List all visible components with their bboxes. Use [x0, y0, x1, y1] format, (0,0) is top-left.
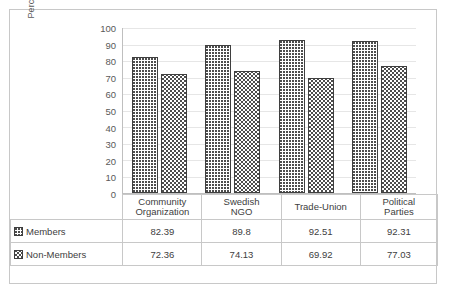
category-cell-2: Trade-Union: [281, 195, 360, 220]
y-tick-40: 40: [105, 122, 116, 133]
y-tick-30: 30: [105, 139, 116, 150]
table-row-categories: Community Organization Swedish NGO Trade…: [11, 195, 438, 220]
value-members-1: 89.8: [202, 220, 281, 243]
y-tick-60: 60: [105, 89, 116, 100]
y-tick-70: 70: [105, 72, 116, 83]
y-axis-tick-labels: 100 90 80 70 60 50 40 30 20 10 0: [68, 28, 120, 194]
value-members-3: 92.31: [360, 220, 437, 243]
category-cell-3: Political Parties: [360, 195, 437, 220]
chart-frame: Percentage 100 90 80 70 60 50 40 30 20 1…: [9, 9, 437, 284]
y-tick-10: 10: [105, 172, 116, 183]
category-line1-3: Political: [383, 196, 416, 207]
axes: [122, 28, 416, 194]
table-row-members: Members 82.39 89.8 92.51 92.31: [11, 220, 438, 243]
value-nonmembers-0: 72.36: [123, 243, 202, 266]
value-nonmembers-1: 74.13: [202, 243, 281, 266]
bar-nonmembers-1[interactable]: [234, 71, 260, 193]
bar-members-3[interactable]: [352, 41, 378, 193]
category-line2-0: Organization: [135, 206, 189, 217]
bar-nonmembers-0[interactable]: [161, 74, 187, 193]
value-members-0: 82.39: [123, 220, 202, 243]
category-cell-1: Swedish NGO: [202, 195, 281, 220]
bar-group-trade-union: [270, 28, 343, 193]
category-line2-3: Parties: [384, 206, 414, 217]
y-tick-80: 80: [105, 56, 116, 67]
series-label-members: Members: [26, 226, 66, 237]
table-row-nonmembers: Non-Members 72.36 74.13 69.92 77.03: [11, 243, 438, 266]
bar-members-2[interactable]: [279, 40, 305, 193]
value-nonmembers-2: 69.92: [281, 243, 360, 266]
category-line1-1: Swedish: [224, 196, 260, 207]
y-tick-100: 100: [100, 23, 116, 34]
bar-nonmembers-2[interactable]: [308, 78, 334, 193]
legend-entry-nonmembers: Non-Members: [11, 243, 123, 266]
bar-group-swedish-ngo: [196, 28, 269, 193]
bar-nonmembers-3[interactable]: [381, 66, 407, 193]
bar-group-community-organization: [123, 28, 196, 193]
bar-members-1[interactable]: [205, 45, 231, 193]
category-cell-0: Community Organization: [123, 195, 202, 220]
value-members-2: 92.51: [281, 220, 360, 243]
category-line2-1: NGO: [231, 206, 253, 217]
y-tick-90: 90: [105, 39, 116, 50]
bar-group-political-parties: [343, 28, 416, 193]
plot-area: Percentage 100 90 80 70 60 50 40 30 20 1…: [10, 10, 438, 212]
bar-members-0[interactable]: [132, 57, 158, 193]
series-label-nonmembers: Non-Members: [26, 249, 86, 260]
data-table: Community Organization Swedish NGO Trade…: [10, 194, 438, 266]
zigzag-pattern-swatch-icon: [14, 250, 23, 259]
y-tick-50: 50: [105, 106, 116, 117]
y-tick-20: 20: [105, 155, 116, 166]
bar-groups: [123, 28, 416, 193]
table-corner-cell: [11, 195, 123, 220]
category-line1-0: Community: [138, 196, 186, 207]
category-line1-2: Trade-Union: [294, 201, 346, 212]
value-nonmembers-3: 77.03: [360, 243, 437, 266]
dotted-pattern-swatch-icon: [14, 227, 23, 236]
legend-entry-members: Members: [11, 220, 123, 243]
y-axis-title: Percentage: [26, 0, 36, 50]
